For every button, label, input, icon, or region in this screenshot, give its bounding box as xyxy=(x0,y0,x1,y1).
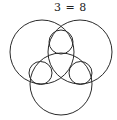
small-circles xyxy=(29,30,92,85)
large-circle-left xyxy=(10,20,74,84)
large-circles xyxy=(10,20,112,115)
circle-diagram xyxy=(0,0,117,120)
small-circle-top xyxy=(49,30,73,54)
large-circle-right xyxy=(48,20,112,84)
small-circle-right xyxy=(69,62,92,85)
